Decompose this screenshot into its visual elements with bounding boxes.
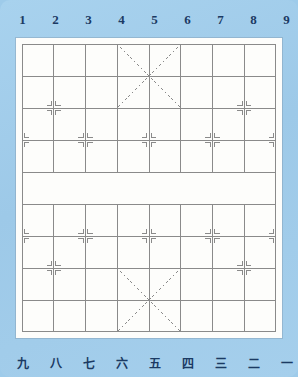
file-label-top-4: 4 <box>105 12 138 28</box>
file-label-bottom-2: 二 <box>237 354 270 372</box>
board-frame <box>16 38 282 338</box>
file-label-bottom-1: 一 <box>270 354 298 372</box>
board-grid <box>22 44 276 332</box>
file-label-bottom-7: 七 <box>72 354 105 372</box>
file-label-bottom-8: 八 <box>39 354 72 372</box>
file-label-bottom-3: 三 <box>204 354 237 372</box>
file-label-bottom-4: 四 <box>171 354 204 372</box>
file-label-top-1: 1 <box>6 12 39 28</box>
board-grid-svg <box>22 44 276 332</box>
file-label-top-9: 9 <box>270 12 298 28</box>
file-label-top-8: 8 <box>237 12 270 28</box>
file-label-top-5: 5 <box>138 12 171 28</box>
file-label-top-6: 6 <box>171 12 204 28</box>
file-label-top-7: 7 <box>204 12 237 28</box>
file-label-bottom-5: 五 <box>138 354 171 372</box>
file-label-top-3: 3 <box>72 12 105 28</box>
file-label-bottom-9: 九 <box>6 354 39 372</box>
file-labels-top: 1 2 3 4 5 6 7 8 9 <box>0 9 298 31</box>
xiangqi-board-page: 1 2 3 4 5 6 7 8 9 九 八 七 六 五 四 三 二 一 <box>0 0 298 377</box>
file-label-bottom-6: 六 <box>105 354 138 372</box>
file-labels-bottom: 九 八 七 六 五 四 三 二 一 <box>0 352 298 374</box>
file-label-top-2: 2 <box>39 12 72 28</box>
